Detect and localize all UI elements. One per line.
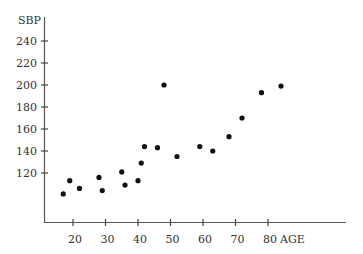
data-point xyxy=(77,186,82,191)
data-point xyxy=(278,84,283,89)
x-tick-label: 30 xyxy=(101,233,115,246)
y-axis-label: SBP xyxy=(18,14,42,27)
data-point xyxy=(259,90,264,95)
data-point xyxy=(161,82,166,87)
data-point xyxy=(100,188,105,193)
data-point xyxy=(119,169,124,174)
x-tick-label: 50 xyxy=(166,233,180,246)
x-tick-label: 40 xyxy=(133,233,147,246)
data-point xyxy=(67,178,72,183)
data-point xyxy=(155,145,160,150)
y-tick-label: 200 xyxy=(16,79,37,92)
y-tick-label: 120 xyxy=(16,167,37,180)
data-point xyxy=(197,144,202,149)
data-point xyxy=(122,183,127,188)
data-point xyxy=(61,191,66,196)
x-tick-label: 70 xyxy=(231,233,245,246)
x-tick-label: 20 xyxy=(68,233,82,246)
y-tick-label: 220 xyxy=(16,57,37,70)
y-tick-label: 240 xyxy=(16,35,37,48)
x-axis-label: AGE xyxy=(279,233,305,246)
data-points xyxy=(61,82,284,196)
data-point xyxy=(210,148,215,153)
y-tick-label: 160 xyxy=(16,123,37,136)
x-tick-label: 60 xyxy=(198,233,212,246)
data-point xyxy=(96,175,101,180)
x-axis: 20304050607080 AGE xyxy=(44,219,346,246)
data-point xyxy=(142,144,147,149)
y-tick-label: 140 xyxy=(16,145,37,158)
y-axis-ticks: 120140160180200220240 xyxy=(16,35,48,180)
data-point xyxy=(239,115,244,120)
data-point xyxy=(226,134,231,139)
y-axis: 120140160180200220240 SBP xyxy=(16,14,48,223)
scatter-chart: 120140160180200220240 SBP 20304050607080… xyxy=(0,0,363,254)
x-tick-label: 80 xyxy=(263,233,277,246)
y-tick-label: 180 xyxy=(16,101,37,114)
data-point xyxy=(139,161,144,166)
data-point xyxy=(135,178,140,183)
data-point xyxy=(174,154,179,159)
